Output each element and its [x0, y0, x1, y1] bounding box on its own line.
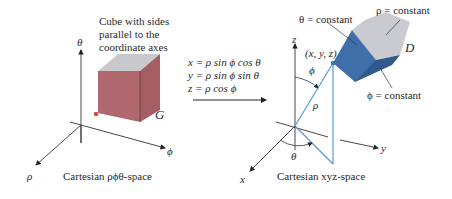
y-axis [340, 140, 378, 148]
rho-constant-label: ρ = constant [376, 4, 430, 17]
theta-axis-label: θ [77, 36, 82, 49]
phi-axis-label: ϕ [167, 145, 173, 158]
rho-construction [280, 61, 335, 164]
phi-arc [295, 77, 318, 88]
cube-caption-line-3: coordinate axes [99, 41, 168, 54]
equation-z: z = ρ cos ϕ [188, 82, 236, 95]
theta-angle-label: θ [291, 150, 296, 163]
cube-caption-line-2: parallel to the [99, 28, 159, 41]
equation-y: y = ρ sin ϕ sin θ [188, 69, 259, 82]
equation-x: x = ρ sin ϕ cos θ [188, 56, 261, 69]
rho-label: ρ [313, 99, 318, 112]
region-d-label: D [405, 41, 414, 54]
cube-caption-line-1: Cube with sides [99, 15, 169, 28]
theta-arc [280, 140, 312, 146]
z-axis-label: z [292, 33, 296, 46]
rho-axis [36, 125, 81, 165]
right-space-label: Cartesian xyz-space [277, 170, 365, 183]
region-g-label: G [155, 108, 164, 121]
rho-axis-label: ρ [27, 170, 32, 183]
left-space-label: Cartesian ρϕθ-space [63, 170, 152, 183]
theta-constant-label: θ = constant [299, 13, 353, 26]
x-axis [250, 126, 295, 171]
cube-g [94, 54, 160, 122]
phi-axis [70, 122, 165, 148]
corner-point [94, 112, 99, 117]
x-axis-label: x [240, 173, 245, 186]
phi-constant-label: ϕ = constant [367, 89, 421, 102]
point-label: (x, y, z) [305, 47, 337, 60]
y-axis-label: y [381, 142, 386, 155]
phi-angle-label: ϕ [309, 64, 315, 77]
phi-const-leader [380, 68, 392, 88]
